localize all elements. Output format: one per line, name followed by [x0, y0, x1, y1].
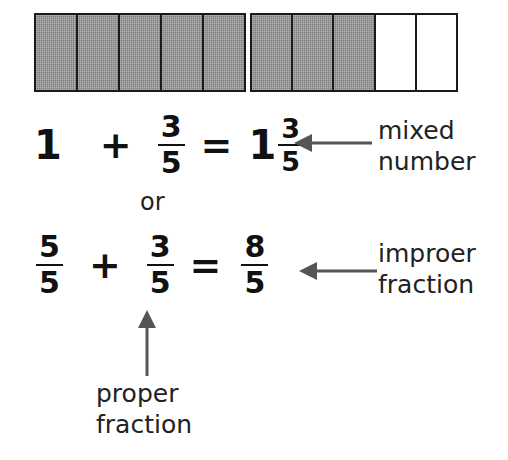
- fraction-diagram-canvas: 1 + 3 5 = 1 3 5 or 5 5 + 3: [0, 0, 508, 460]
- bar-cell: [417, 15, 456, 90]
- numerator: 5: [36, 232, 63, 262]
- bar-cell: [293, 15, 334, 90]
- bar-cell: [334, 15, 375, 90]
- bar-cell: [162, 15, 204, 90]
- bar-cell: [120, 15, 162, 90]
- eq2-result-fraction-eight-fifths: 8 5: [241, 232, 268, 298]
- eq1-fraction-three-fifths: 3 5: [158, 112, 185, 178]
- denominator: 5: [241, 268, 268, 298]
- bar-cell: [36, 15, 78, 90]
- bar-cell: [204, 15, 244, 90]
- eq1-plus-operator: +: [100, 126, 132, 164]
- eq1-equals-operator: =: [201, 126, 233, 164]
- label-improper-fraction: improer fraction: [378, 238, 476, 300]
- equation-mixed-number: 1 + 3 5 = 1 3 5: [34, 112, 303, 178]
- numerator: 3: [158, 112, 185, 142]
- bar-cell: [252, 15, 293, 90]
- bar-cell: [78, 15, 120, 90]
- eq2-equals-operator: =: [190, 246, 222, 284]
- eq1-whole-one: 1: [34, 125, 62, 165]
- eq2-fraction-five-fifths: 5 5: [36, 232, 63, 298]
- eq2-fraction-three-fifths: 3 5: [147, 232, 174, 298]
- arrow-up-icon-proper-fraction: [136, 308, 158, 378]
- denominator: 5: [158, 148, 185, 178]
- numerator: 3: [147, 232, 174, 262]
- eq1-result-whole: 1: [248, 125, 276, 165]
- eq2-plus-operator: +: [89, 246, 121, 284]
- denominator: 5: [36, 268, 63, 298]
- fraction-bar-left-whole: [34, 13, 246, 92]
- numerator: 8: [241, 232, 268, 262]
- equation-improper-fraction: 5 5 + 3 5 = 8 5: [36, 232, 268, 298]
- connector-or-text: or: [140, 188, 165, 216]
- bar-cell: [376, 15, 417, 90]
- denominator: 5: [147, 268, 174, 298]
- arrow-left-icon-mixed-number: [292, 132, 374, 154]
- fraction-bar-right-three-fifths: [250, 13, 458, 92]
- arrow-left-icon-improper-fraction: [297, 260, 379, 282]
- label-mixed-number: mixed number: [378, 115, 476, 177]
- label-proper-fraction: proper fraction: [96, 378, 192, 440]
